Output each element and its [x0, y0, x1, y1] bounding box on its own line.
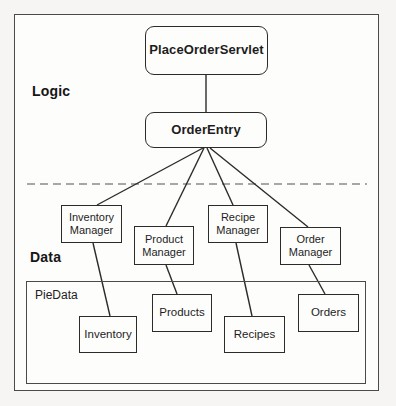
data-section-label: Data [30, 249, 61, 265]
piedata-label: PieData [35, 288, 78, 302]
logic-section-label: Logic [32, 83, 70, 99]
node-order-entry: OrderEntry [145, 112, 267, 148]
node-place-order-servlet: PlaceOrderServlet [145, 26, 268, 75]
node-orders: Orders [298, 294, 359, 332]
node-products: Products [152, 294, 212, 332]
node-inventory: Inventory [79, 316, 137, 353]
node-order-manager: Order Manager [280, 227, 341, 265]
architecture-diagram: Logic Data PlaceOrderServlet OrderEntry … [0, 0, 396, 406]
node-recipe-manager: Recipe Manager [208, 205, 268, 243]
node-recipes: Recipes [224, 316, 285, 353]
node-inventory-manager: Inventory Manager [61, 205, 122, 243]
node-product-manager: Product Manager [134, 226, 194, 265]
